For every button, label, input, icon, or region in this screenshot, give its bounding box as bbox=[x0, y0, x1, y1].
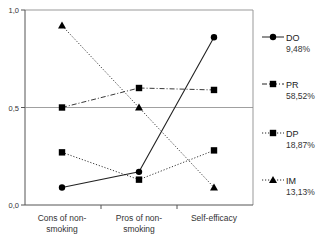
circle-marker-icon bbox=[136, 169, 142, 175]
line-chart: 0,00,51,0 Cons of non-smokingPros of non… bbox=[0, 0, 330, 239]
x-category-label: Pros of non- bbox=[116, 213, 162, 223]
y-tick-label: 0,5 bbox=[9, 104, 19, 113]
circle-marker-icon bbox=[59, 184, 65, 190]
legend-square-icon bbox=[270, 130, 276, 136]
legend-series-percent: 18,87% bbox=[286, 140, 315, 150]
legend-item-dp: DP18,87% bbox=[262, 129, 315, 150]
legend-circle-icon bbox=[270, 34, 276, 40]
legend-square-icon bbox=[270, 81, 276, 87]
x-category-label: smoking bbox=[46, 224, 78, 234]
series-line bbox=[62, 37, 214, 187]
x-category-labels: Cons of non-smokingPros of non-smokingSe… bbox=[38, 213, 238, 234]
square-marker-icon bbox=[59, 149, 65, 155]
series-line bbox=[62, 150, 214, 179]
legend-series-name: DO bbox=[286, 33, 300, 43]
circle-marker-icon bbox=[211, 34, 217, 40]
square-marker-icon bbox=[136, 176, 142, 182]
legend-series-percent: 58,52% bbox=[286, 91, 315, 101]
legend-series-percent: 9,48% bbox=[286, 44, 311, 54]
series-do bbox=[59, 34, 217, 191]
square-marker-icon bbox=[59, 104, 65, 110]
y-tick-label: 1,0 bbox=[9, 6, 19, 15]
x-category-label: smoking bbox=[123, 224, 155, 234]
legend: DO9,48%PR58,52%DP18,87%IM13,13% bbox=[262, 33, 315, 197]
square-marker-icon bbox=[211, 87, 217, 93]
legend-item-do: DO9,48% bbox=[262, 33, 311, 54]
y-tick-labels: 0,00,51,0 bbox=[9, 6, 19, 210]
legend-item-pr: PR58,52% bbox=[262, 80, 315, 101]
legend-series-name: DP bbox=[286, 129, 299, 139]
square-marker-icon bbox=[136, 85, 142, 91]
triangle-marker-icon bbox=[58, 22, 66, 29]
series-im bbox=[58, 22, 218, 191]
series-group bbox=[58, 22, 218, 191]
triangle-marker-icon bbox=[210, 183, 218, 190]
legend-series-name: IM bbox=[286, 176, 296, 186]
square-marker-icon bbox=[211, 147, 217, 153]
legend-series-percent: 13,13% bbox=[286, 187, 315, 197]
x-category-label: Cons of non- bbox=[38, 213, 87, 223]
legend-triangle-icon bbox=[269, 176, 277, 183]
legend-series-name: PR bbox=[286, 80, 299, 90]
series-dp bbox=[59, 147, 217, 183]
x-category-label: Self-efficacy bbox=[191, 213, 238, 223]
y-tick-label: 0,0 bbox=[9, 201, 19, 210]
legend-item-im: IM13,13% bbox=[262, 176, 315, 197]
